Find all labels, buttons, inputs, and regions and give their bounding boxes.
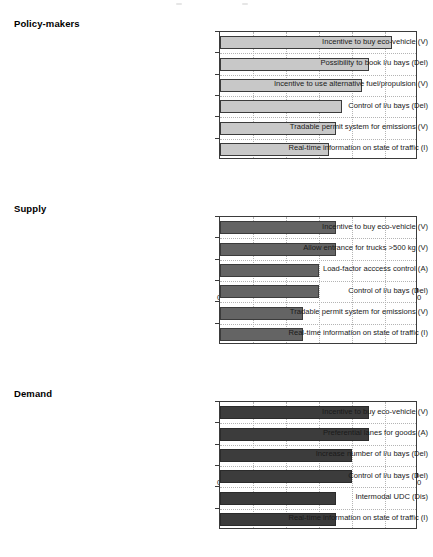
category-label: Real-time information on state of traffi… [219, 513, 433, 522]
gridline-horizontal [220, 238, 416, 239]
y-axis-tick [215, 323, 219, 324]
plot-area: Incentive to buy eco-vehicle (V)Possibil… [0, 31, 433, 159]
category-label: Incentive to buy eco-vehicle (V) [219, 37, 433, 46]
y-axis-tick [215, 280, 219, 281]
category-label: Control of l/u bays (Del) [219, 286, 433, 295]
gridline-horizontal [220, 324, 416, 325]
y-axis-tick [215, 216, 219, 217]
y-axis-tick [215, 465, 219, 466]
plot-area: Incentive to buy eco-vehicle (V)Allow en… [0, 216, 433, 344]
plot-area: Incentive to buy eco-vehicle (V)Preferen… [0, 401, 433, 529]
gridline-horizontal [220, 466, 416, 467]
scan-artifact [242, 3, 248, 5]
panel-title: Supply [14, 203, 433, 214]
chart-page: Policy-makersIncentive to buy eco-vehicl… [0, 0, 433, 557]
gridline-horizontal [220, 487, 416, 488]
gridline-horizontal [220, 302, 416, 303]
category-label: Intermodal UDC (Dis) [219, 492, 433, 501]
y-axis-tick [215, 52, 219, 53]
chart-panel: SupplyIncentive to buy eco-vehicle (V)Al… [0, 203, 433, 362]
y-axis-tick [215, 237, 219, 238]
y-axis-tick [215, 138, 219, 139]
category-label: Real-time information on state of traffi… [219, 143, 433, 152]
category-label: Tradable permit system for emissions (V) [219, 122, 433, 131]
category-label: Control of l/u bays (Del) [219, 471, 433, 480]
panel-title: Policy-makers [14, 18, 433, 29]
panel-title: Demand [14, 388, 433, 399]
y-axis-tick [215, 486, 219, 487]
chart-panel: Policy-makersIncentive to buy eco-vehicl… [0, 18, 433, 177]
gridline-horizontal [220, 445, 416, 446]
category-label: Load-factor acccess control (A) [219, 264, 433, 273]
category-label: Real-time information on state of traffi… [219, 328, 433, 337]
y-axis-tick [215, 422, 219, 423]
gridline-horizontal [220, 281, 416, 282]
category-label: Increase number of l/u bays (Del) [219, 449, 433, 458]
gridline-horizontal [220, 423, 416, 424]
y-axis-tick [215, 259, 219, 260]
plot-box [219, 401, 417, 529]
y-axis-tick [215, 301, 219, 302]
category-label: Possibility to book l/u bays (Del) [219, 58, 433, 67]
gridline-horizontal [220, 53, 416, 54]
chart-panel: DemandIncentive to buy eco-vehicle (V)Pr… [0, 388, 433, 547]
y-axis-tick [215, 444, 219, 445]
gridline-horizontal [220, 260, 416, 261]
y-axis-tick [215, 401, 219, 402]
y-axis-tick [215, 116, 219, 117]
category-label: Incentive to use alternative fuel/propul… [219, 79, 433, 88]
gridline-horizontal [220, 75, 416, 76]
category-label: Control of l/u bays (Del) [219, 101, 433, 110]
category-label: Tradable permit system for emissions (V) [219, 307, 433, 316]
gridline-horizontal [220, 96, 416, 97]
gridline-horizontal [220, 117, 416, 118]
y-axis-tick [215, 74, 219, 75]
category-label: Incentive to buy eco-vehicle (V) [219, 407, 433, 416]
gridline-horizontal [220, 139, 416, 140]
y-axis-tick [215, 508, 219, 509]
category-label: Allow entrance for trucks >500 kg (V) [219, 243, 433, 252]
plot-box [219, 216, 417, 344]
y-axis-tick [215, 95, 219, 96]
scan-artifact [176, 3, 182, 5]
category-label: Incentive to buy eco-vehicle (V) [219, 222, 433, 231]
category-label: Preferential lanes for goods (A) [219, 428, 433, 437]
plot-box [219, 31, 417, 159]
y-axis-tick [215, 31, 219, 32]
gridline-horizontal [220, 509, 416, 510]
